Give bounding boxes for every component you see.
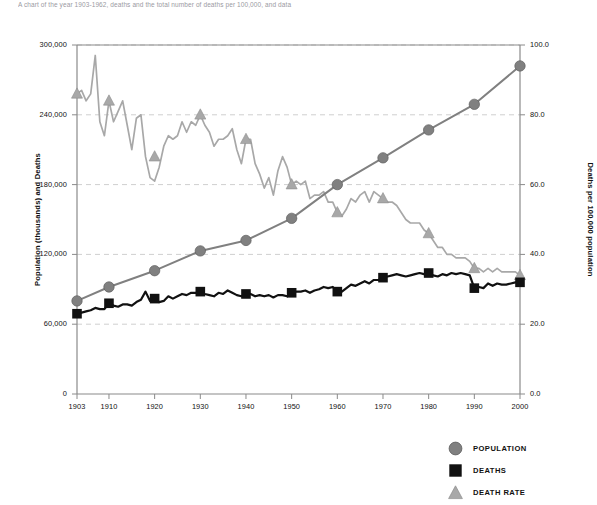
x-axis-tick-label: 1920 [135,402,175,411]
data-point-marker [470,283,480,293]
chart-legend: POPULATIONDEATHSDEATH RATE [447,437,587,503]
chart-figure: A chart of the year 1903-1962, deaths an… [0,0,597,505]
legend-item-deaths[interactable]: DEATHS [447,459,587,481]
square-marker-icon [447,462,464,479]
legend-item-death-rate[interactable]: DEATH RATE [447,481,587,503]
y-axis-right-tick-label: 60.0 [530,180,580,189]
y-axis-left-tick-label: 60,000 [7,319,67,328]
y-axis-left-tick-label: 120,000 [7,249,67,258]
data-point-marker [241,235,251,245]
x-axis-tick-label: 1940 [226,402,266,411]
data-point-marker [515,278,525,288]
y-axis-right-title: Deaths per 100,000 population [586,120,595,320]
legend-label: DEATH RATE [473,488,525,497]
data-point-marker [332,179,342,189]
data-point-marker [104,282,114,292]
data-point-marker [103,95,114,105]
x-axis-tick-label: 1960 [317,402,357,411]
x-axis-tick-label: 1990 [454,402,494,411]
data-point-marker [149,265,159,275]
data-point-marker [424,268,434,278]
y-axis-left-title: Population (thousands) and Deaths [33,120,42,320]
data-point-marker [72,309,82,319]
data-point-marker [71,88,82,98]
data-point-marker [104,298,114,308]
circle-marker-icon [447,440,464,457]
data-point-marker [241,289,251,299]
series-line [77,273,520,314]
triangle-marker-icon [447,484,464,501]
data-point-marker [378,153,388,163]
series-line [77,55,520,275]
x-axis-tick-label: 1910 [89,402,129,411]
x-axis-tick-label: 2000 [500,402,540,411]
x-axis-tick-label: 1970 [363,402,403,411]
y-axis-right-tick-label: 80.0 [530,110,580,119]
y-axis-left-tick-label: 180,000 [7,180,67,189]
data-point-marker [378,273,388,283]
data-point-marker [423,125,433,135]
data-point-marker [286,213,296,223]
data-point-marker [515,61,525,71]
data-point-marker [333,287,343,297]
data-point-marker [72,296,82,306]
data-point-marker [196,287,206,297]
data-point-marker [287,288,297,298]
series-death-rate [71,55,525,279]
data-point-marker [150,294,160,304]
y-axis-right-tick-label: 20.0 [530,319,580,328]
x-axis-tick-label: 1950 [272,402,312,411]
y-axis-left-tick-label: 300,000 [7,40,67,49]
data-point-marker [286,179,297,189]
data-point-marker [469,99,479,109]
x-axis-tick-label: 1930 [180,402,220,411]
y-axis-left-tick-label: 240,000 [7,110,67,119]
legend-item-population[interactable]: POPULATION [447,437,587,459]
data-point-marker [377,193,388,203]
y-axis-right-tick-label: 40.0 [530,249,580,258]
data-point-marker [423,227,434,237]
y-axis-left-tick-label: 0 [7,389,67,398]
y-axis-right-tick-label: 100.0 [530,40,580,49]
y-axis-right-tick-label: 0.0 [530,389,580,398]
legend-label: DEATHS [473,466,506,475]
data-point-marker [332,207,343,217]
x-axis-tick-label: 1980 [409,402,449,411]
data-point-marker [195,109,206,119]
data-point-marker [195,246,205,256]
chart-plot-area [0,0,597,505]
data-point-marker [149,151,160,161]
legend-label: POPULATION [473,444,527,453]
